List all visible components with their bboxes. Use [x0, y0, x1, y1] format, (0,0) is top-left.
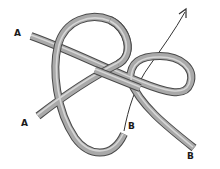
rope-strand-a-bottom-to-b-middle [37, 17, 128, 152]
knot-diagram: A A B B [0, 0, 220, 169]
rope-overcrossing-top-arch [110, 20, 128, 64]
end-label-a-bottom: A [21, 119, 28, 128]
end-label-b-middle: B [128, 122, 135, 131]
knot-illustration [0, 0, 220, 169]
end-label-b-bottom: B [187, 152, 194, 161]
end-label-a-top: A [14, 29, 21, 38]
